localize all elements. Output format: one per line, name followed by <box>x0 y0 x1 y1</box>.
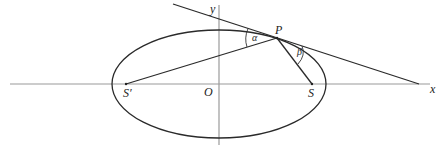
point-p <box>276 37 278 39</box>
angle-alpha-label: α <box>252 32 258 43</box>
focal-radius-left <box>126 38 277 84</box>
y-axis-label: y <box>209 2 216 16</box>
focus-left-point <box>125 83 127 85</box>
focal-radius-right <box>277 38 312 84</box>
focus-right-point <box>311 83 313 85</box>
tangent-line <box>173 4 419 84</box>
origin-label: O <box>204 85 213 99</box>
focus-right-label: S <box>308 86 314 100</box>
point-p-label: P <box>274 23 283 37</box>
focus-left-label: S′ <box>123 86 132 100</box>
angle-beta-label: β <box>296 46 302 57</box>
ellipse-diagram: x y O P S S′ α β <box>0 0 444 146</box>
x-axis-label: x <box>429 82 436 96</box>
